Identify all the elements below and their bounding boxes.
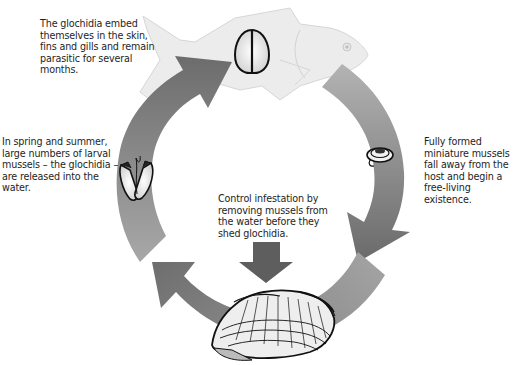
caption-glochidia-release: In spring and summer, large numbers of l…: [2, 136, 122, 194]
cycle-arrow-release-to-host: [117, 56, 232, 262]
glochidium-closed-icon: [235, 30, 269, 73]
caption-glochidia-embed: The glochidia embed themselves in the sk…: [40, 18, 160, 76]
adult-mussel-icon: [212, 291, 335, 361]
control-arrow-icon: [239, 242, 293, 283]
caption-juvenile-fall-away: Fully formed miniature mussels fall away…: [424, 136, 515, 206]
cycle-arrow-host-to-free-living: [322, 64, 410, 262]
caption-control-infestation: Control infestation by removing mussels …: [218, 193, 330, 239]
